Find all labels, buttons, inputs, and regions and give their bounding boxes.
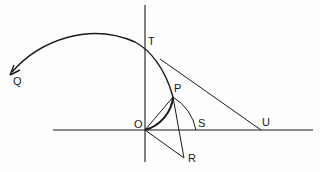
tangent-line-tu [160,59,261,130]
label-p: P [174,83,181,94]
label-u: U [262,117,270,128]
label-q: Q [13,76,22,87]
label-r: R [188,153,196,164]
diagram-canvas [0,0,320,172]
label-s: S [198,118,205,129]
segment-op [145,97,173,130]
label-o: O [134,119,143,130]
segment-pr [173,97,184,158]
geometry-figure: Q T P O S U R [0,0,320,172]
label-t: T [148,36,155,47]
segment-or [145,130,184,158]
arrowhead-icon [10,65,20,75]
